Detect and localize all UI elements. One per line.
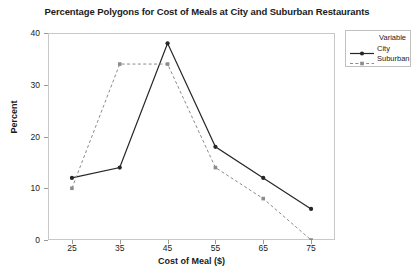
- plot-area: [48, 33, 335, 240]
- x-tick-label: 35: [105, 243, 135, 253]
- y-tick-label: 10: [14, 183, 40, 193]
- chart-title: Percentage Polygons for Cost of Meals at…: [0, 6, 414, 17]
- y-axis-title: Percent: [9, 82, 19, 152]
- data-point: [165, 41, 169, 45]
- data-point: [166, 62, 170, 66]
- data-point: [118, 62, 122, 66]
- chart-legend: Variable CitySuburban: [345, 30, 411, 67]
- legend-item-city[interactable]: City: [349, 43, 407, 53]
- y-tick-mark: [44, 33, 48, 34]
- y-tick-label: 40: [14, 28, 40, 38]
- x-tick-label: 65: [248, 243, 278, 253]
- series-city: [70, 41, 313, 211]
- legend-label: City: [375, 44, 390, 53]
- legend-title: Variable: [349, 33, 407, 42]
- x-tick-mark: [263, 240, 264, 244]
- legend-rows: CitySuburban: [349, 43, 407, 63]
- x-tick-mark: [168, 240, 169, 244]
- legend-item-suburban[interactable]: Suburban: [349, 53, 407, 63]
- x-tick-mark: [311, 240, 312, 244]
- y-tick-mark: [44, 188, 48, 189]
- y-tick-mark: [44, 240, 48, 241]
- x-tick-mark: [72, 240, 73, 244]
- data-point: [214, 166, 218, 170]
- data-point: [261, 176, 265, 180]
- x-axis-title: Cost of Meal ($): [48, 256, 335, 266]
- x-tick-label: 55: [200, 243, 230, 253]
- x-tick-mark: [120, 240, 121, 244]
- y-tick-mark: [44, 137, 48, 138]
- x-tick-label: 45: [153, 243, 183, 253]
- x-tick-label: 25: [57, 243, 87, 253]
- data-point: [309, 207, 313, 211]
- data-point: [70, 186, 74, 190]
- legend-key-icon: [349, 44, 375, 53]
- series-line: [72, 43, 311, 209]
- data-point: [70, 176, 74, 180]
- y-tick-label: 30: [14, 80, 40, 90]
- x-tick-mark: [215, 240, 216, 244]
- series-line: [72, 64, 311, 240]
- series-suburban: [70, 62, 313, 240]
- legend-key-icon: [349, 54, 375, 63]
- data-point: [118, 165, 122, 169]
- y-tick-label: 0: [14, 235, 40, 245]
- legend-label: Suburban: [375, 54, 410, 63]
- data-point: [213, 145, 217, 149]
- series-layer: [70, 41, 313, 240]
- x-tick-label: 75: [296, 243, 326, 253]
- y-tick-mark: [44, 85, 48, 86]
- y-tick-label: 20: [14, 132, 40, 142]
- data-point: [261, 197, 265, 201]
